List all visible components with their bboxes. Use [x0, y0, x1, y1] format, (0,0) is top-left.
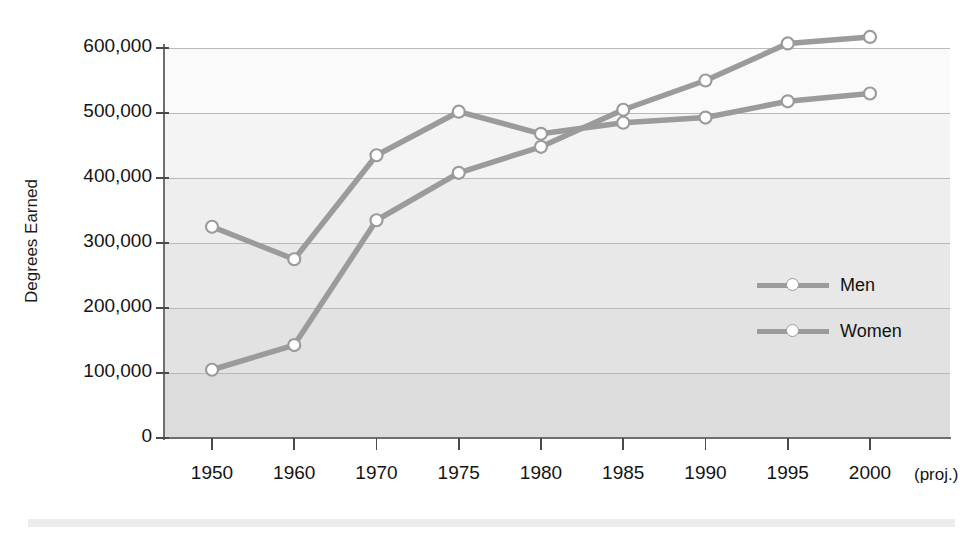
- data-point-marker[interactable]: [782, 95, 794, 107]
- data-point-marker[interactable]: [288, 253, 300, 265]
- data-point-marker[interactable]: [700, 75, 712, 87]
- data-point-marker[interactable]: [864, 88, 876, 100]
- data-point-marker[interactable]: [206, 221, 218, 233]
- data-point-marker[interactable]: [782, 37, 794, 49]
- legend-label-men: Men: [840, 275, 875, 296]
- data-point-marker[interactable]: [206, 364, 218, 376]
- chart-legend: Men Women: [757, 262, 947, 354]
- data-point-marker[interactable]: [535, 128, 547, 140]
- footer-divider: [28, 519, 955, 527]
- legend-item-women[interactable]: Women: [757, 308, 947, 354]
- data-point-marker[interactable]: [617, 104, 629, 116]
- data-point-marker[interactable]: [453, 167, 465, 179]
- legend-item-men[interactable]: Men: [757, 262, 947, 308]
- data-point-marker[interactable]: [864, 31, 876, 43]
- data-point-marker[interactable]: [288, 339, 300, 351]
- legend-label-women: Women: [840, 321, 902, 342]
- data-point-marker[interactable]: [535, 141, 547, 153]
- data-point-marker[interactable]: [453, 106, 465, 118]
- legend-swatch-women-icon: [757, 324, 829, 338]
- data-point-marker[interactable]: [371, 214, 383, 226]
- data-point-marker[interactable]: [371, 149, 383, 161]
- data-point-marker[interactable]: [617, 117, 629, 129]
- legend-swatch-men-icon: [757, 278, 829, 292]
- series-line-men: [212, 94, 870, 260]
- data-point-marker[interactable]: [700, 112, 712, 124]
- chart-figure: Degrees Earned 0100,000200,000300,000400…: [0, 0, 979, 542]
